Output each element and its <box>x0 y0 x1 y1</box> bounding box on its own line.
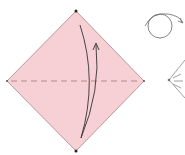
vertex-dot-top <box>75 10 78 13</box>
turn-over-icon <box>145 14 183 38</box>
vertex-dot-left <box>6 80 8 82</box>
repeat-fold-icon <box>168 60 185 98</box>
vertex-dot-bottom <box>75 150 78 153</box>
origami-diagram <box>0 0 185 155</box>
vertex-dot-right <box>143 80 145 82</box>
